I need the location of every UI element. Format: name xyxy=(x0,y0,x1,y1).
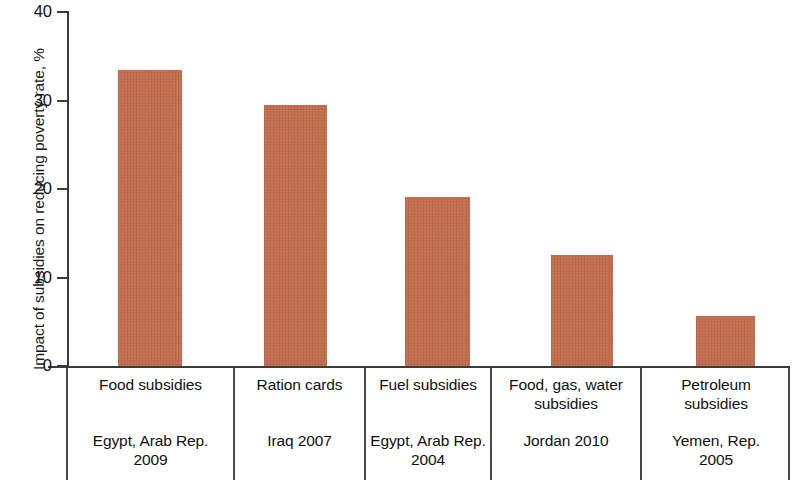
category-country-year-label: Iraq 2007 xyxy=(235,431,364,450)
category-country-year-label: Egypt, Arab Rep.2009 xyxy=(68,431,233,469)
category-program-label: Ration cards xyxy=(257,375,343,394)
category-cell: PetroleumsubsidiesYemen, Rep.2005 xyxy=(642,368,790,480)
category-country-year-label: Yemen, Rep.2005 xyxy=(642,431,790,469)
bar xyxy=(551,255,613,366)
category-program-label: Fuel subsidies xyxy=(379,375,477,394)
category-label-table: Food subsidiesEgypt, Arab Rep.2009Ration… xyxy=(66,368,790,480)
category-cell: Ration cardsIraq 2007 xyxy=(235,368,366,480)
category-program-label: Petroleumsubsidies xyxy=(681,375,751,413)
category-cell: Food, gas, watersubsidiesJordan 2010 xyxy=(492,368,642,480)
y-tick-mark xyxy=(57,277,67,279)
y-tick-mark xyxy=(57,188,67,190)
y-tick-label: 10 xyxy=(0,269,52,286)
bar xyxy=(264,105,327,366)
y-axis-line xyxy=(67,11,69,368)
bar xyxy=(405,197,470,366)
y-tick-mark xyxy=(57,365,67,367)
category-program-label: Food, gas, watersubsidies xyxy=(509,375,623,413)
category-cell: Fuel subsidiesEgypt, Arab Rep.2004 xyxy=(366,368,492,480)
y-tick-label: 0 xyxy=(0,357,52,374)
category-program-label: Food subsidies xyxy=(99,375,202,394)
y-tick-mark xyxy=(57,11,67,13)
bar xyxy=(696,316,755,366)
bar-chart-figure: Impact of subsidies on reducing poverty … xyxy=(0,0,796,481)
y-tick-mark xyxy=(57,100,67,102)
y-tick-label: 30 xyxy=(0,92,52,109)
category-country-year-label: Jordan 2010 xyxy=(492,431,640,450)
y-tick-label: 20 xyxy=(0,180,52,197)
category-country-year-label: Egypt, Arab Rep.2004 xyxy=(366,431,490,469)
category-cell: Food subsidiesEgypt, Arab Rep.2009 xyxy=(68,368,235,480)
bar xyxy=(118,70,182,366)
y-tick-label: 40 xyxy=(0,3,52,20)
